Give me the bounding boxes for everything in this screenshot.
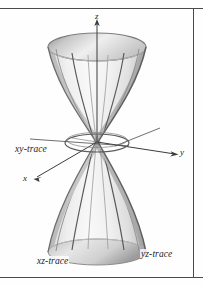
frame-rule-bottom	[0, 277, 203, 278]
frame-rule-right	[193, 8, 194, 277]
frame-rule-top	[0, 8, 203, 9]
yz-trace-label: yz-trace	[140, 249, 173, 261]
xz-trace-label: xz-trace	[36, 256, 69, 268]
y-axis-arrowhead	[170, 151, 178, 156]
figure-container: xy-trace xz-trace yz-trace z y x	[0, 0, 203, 286]
x-axis-label: x	[23, 174, 27, 183]
y-axis-label: y	[180, 148, 184, 157]
hyperboloid-diagram	[0, 0, 203, 286]
z-axis-label: z	[95, 12, 99, 21]
x-axis-arrowhead	[34, 177, 42, 182]
xy-trace-label: xy-trace	[14, 144, 48, 156]
y-axis-line	[97, 142, 175, 154]
